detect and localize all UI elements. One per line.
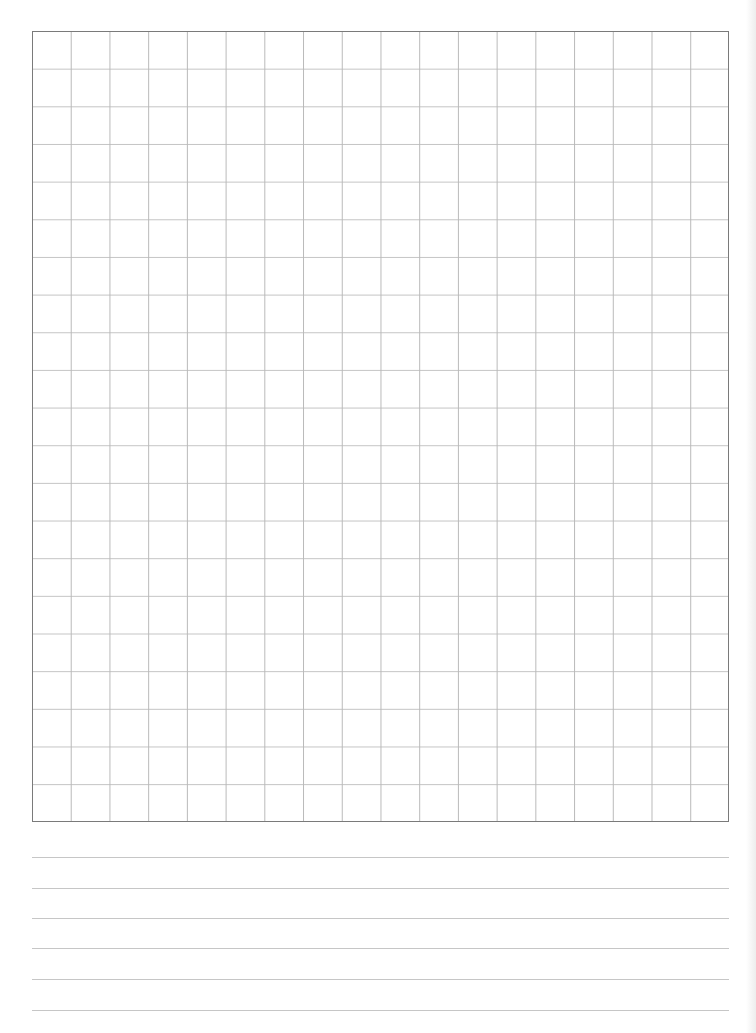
writing-line xyxy=(32,948,729,949)
writing-line xyxy=(32,857,729,858)
writing-line xyxy=(32,979,729,980)
writing-line xyxy=(32,888,729,889)
writing-line xyxy=(32,1010,729,1011)
writing-line xyxy=(32,918,729,919)
graph-grid xyxy=(32,31,729,822)
page-edge-shadow xyxy=(746,0,756,1033)
